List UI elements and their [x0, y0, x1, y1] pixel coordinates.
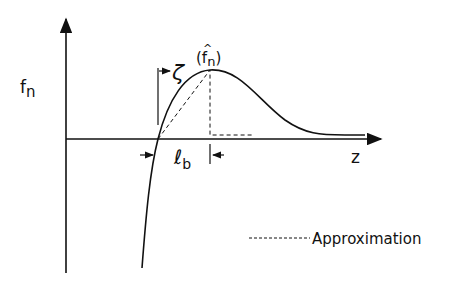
- legend-label: Approximation: [312, 230, 421, 248]
- lb-label: ℓb: [173, 145, 191, 172]
- x-axis-label: z: [351, 147, 360, 167]
- zeta-label: ζ: [171, 60, 185, 85]
- y-axis-label: fn: [20, 77, 36, 101]
- diagram-canvas: fn (fn) ^ ζ ℓb z Approximation: [0, 0, 457, 284]
- peak-hat: ^: [203, 42, 212, 55]
